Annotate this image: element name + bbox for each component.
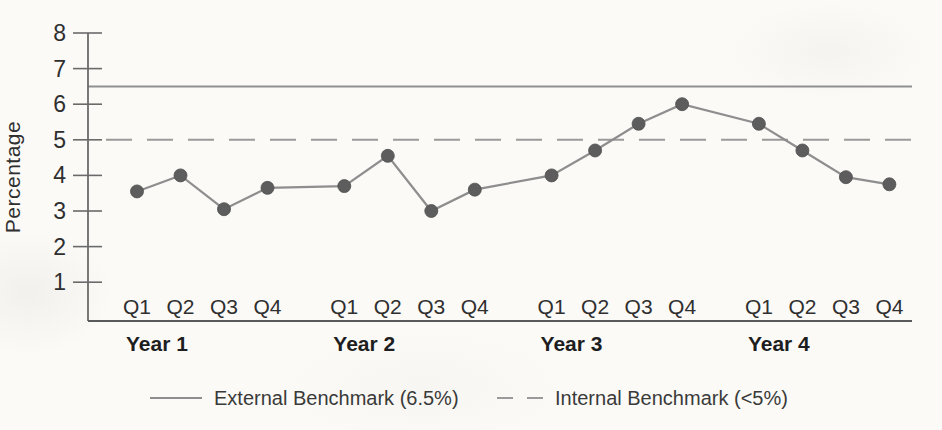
year-label: Year 2 <box>333 332 395 355</box>
quarter-label: Q2 <box>166 295 194 318</box>
data-point <box>425 205 438 218</box>
data-point <box>883 178 896 191</box>
year-label: Year 1 <box>126 332 188 355</box>
y-tick-label: 3 <box>53 198 66 224</box>
data-point <box>381 149 394 162</box>
quarter-label: Q4 <box>461 295 489 318</box>
quarter-label: Q4 <box>875 295 903 318</box>
y-tick-label: 6 <box>53 91 66 117</box>
y-tick-label: 5 <box>53 127 66 153</box>
data-point <box>261 181 274 194</box>
quarter-label: Q2 <box>788 295 816 318</box>
y-tick-label: 8 <box>53 20 66 46</box>
quarter-label: Q3 <box>625 295 653 318</box>
quarter-label: Q1 <box>745 295 773 318</box>
data-point <box>632 117 645 130</box>
data-point <box>839 171 852 184</box>
quarter-label: Q2 <box>581 295 609 318</box>
data-point <box>338 180 351 193</box>
data-point <box>218 203 231 216</box>
quarter-label: Q3 <box>210 295 238 318</box>
quarter-label: Q2 <box>374 295 402 318</box>
quarter-label: Q4 <box>668 295 696 318</box>
y-tick-label: 2 <box>53 234 66 260</box>
quarter-label: Q1 <box>330 295 358 318</box>
data-point <box>131 185 144 198</box>
data-point <box>468 183 481 196</box>
quarter-label: Q3 <box>417 295 445 318</box>
data-point <box>676 98 689 111</box>
data-point <box>796 144 809 157</box>
year-label: Year 4 <box>748 332 810 355</box>
quarter-label: Q4 <box>253 295 281 318</box>
y-tick-label: 7 <box>53 56 66 82</box>
year-label: Year 3 <box>541 332 603 355</box>
y-tick-label: 4 <box>53 162 66 188</box>
data-point <box>174 169 187 182</box>
data-point <box>545 169 558 182</box>
chart-plot-area: 12345678Q1Q2Q3Q4Year 1Q1Q2Q3Q4Year 2Q1Q2… <box>0 0 942 430</box>
percentage-benchmark-chart: 12345678Q1Q2Q3Q4Year 1Q1Q2Q3Q4Year 2Q1Q2… <box>0 0 942 430</box>
quarter-label: Q3 <box>832 295 860 318</box>
data-point <box>752 117 765 130</box>
data-series-line <box>137 104 889 211</box>
quarter-label: Q1 <box>123 295 151 318</box>
data-point <box>589 144 602 157</box>
y-tick-label: 1 <box>53 269 66 295</box>
quarter-label: Q1 <box>538 295 566 318</box>
